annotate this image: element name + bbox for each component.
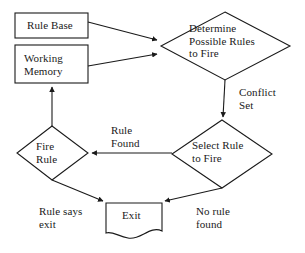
edge-rule-base-to-determine bbox=[88, 22, 157, 40]
edge-label-rule-found: RuleFound bbox=[111, 124, 140, 149]
edge-label-rule-found-line-1: Rule bbox=[111, 124, 132, 136]
edge-label-no-rule-found-line-1: No rule bbox=[196, 205, 230, 217]
edge-label-rule-says-exit-line-2: exit bbox=[39, 218, 56, 230]
edge-select-to-exit bbox=[165, 188, 222, 201]
node-determine-line-1: Determine bbox=[189, 22, 236, 34]
node-working-memory-label: WorkingMemory bbox=[24, 52, 63, 77]
node-select-rule-label: Select Ruleto Fire bbox=[192, 139, 244, 164]
flowchart-diagram: Rule Base WorkingMemory DeterminePossibl… bbox=[0, 0, 305, 253]
edge-label-rule-says-exit-line-1: Rule says bbox=[39, 205, 82, 217]
node-working-memory-line-1: Working bbox=[24, 52, 63, 64]
edge-label-rule-says-exit: Rule saysexit bbox=[39, 205, 82, 230]
edge-label-conflict-set: ConflictSet bbox=[239, 86, 276, 111]
node-fire-rule-label: FireRule bbox=[36, 140, 57, 165]
node-determine-possible-rules-label: DeterminePossible Rulesto Fire bbox=[189, 22, 255, 60]
node-select-rule-line-1: Select Rule bbox=[192, 139, 244, 151]
node-fire-rule-line-1: Fire bbox=[36, 140, 54, 152]
edge-fire-rule-to-exit bbox=[52, 180, 103, 201]
edge-label-rule-found-line-2: Found bbox=[111, 137, 140, 149]
node-working-memory-line-2: Memory bbox=[24, 65, 62, 77]
edge-label-no-rule-found: No rulefound bbox=[196, 205, 230, 230]
edge-label-conflict-set-line-2: Set bbox=[239, 99, 253, 111]
edge-label-conflict-set-line-1: Conflict bbox=[239, 86, 276, 98]
node-determine-line-2: Possible Rules bbox=[189, 35, 255, 47]
node-fire-rule-line-2: Rule bbox=[36, 153, 57, 165]
node-select-rule-line-2: to Fire bbox=[192, 152, 222, 164]
edge-working-memory-to-determine bbox=[88, 54, 157, 66]
node-exit-label: Exit bbox=[122, 209, 141, 222]
edge-label-no-rule-found-line-2: found bbox=[196, 218, 222, 230]
node-rule-base-label: Rule Base bbox=[27, 19, 73, 32]
edge-determine-to-select bbox=[223, 80, 225, 117]
node-determine-line-3: to Fire bbox=[189, 47, 219, 59]
